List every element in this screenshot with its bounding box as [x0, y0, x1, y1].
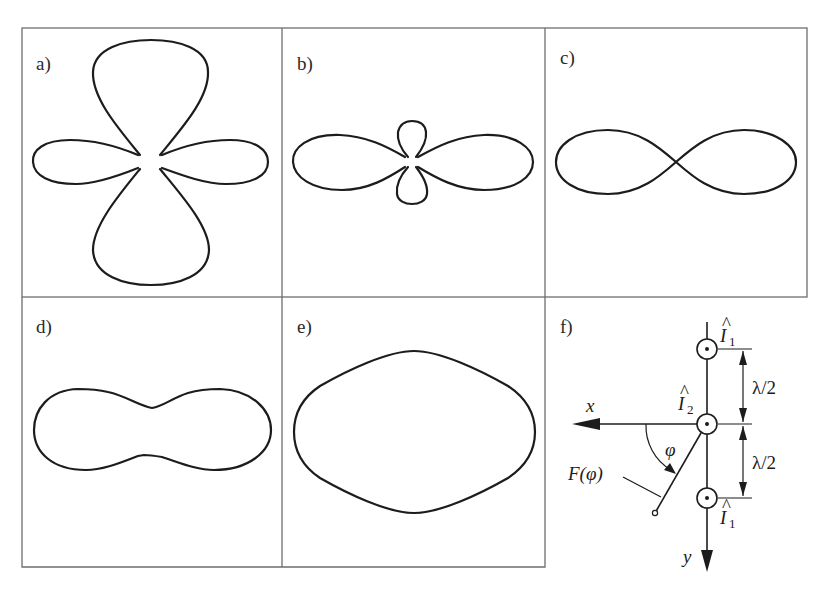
spacing-label-lower: λ/2 — [752, 452, 776, 473]
angle-arrow-icon — [664, 463, 676, 474]
pattern-leader-line — [623, 477, 661, 497]
top-row-frame — [22, 28, 807, 297]
pattern-a — [33, 40, 268, 285]
panel-label-f: f) — [560, 316, 573, 338]
pattern-e — [294, 351, 535, 513]
panel-label-d: d) — [36, 316, 52, 338]
radiation-pattern-figure: a) b) c) — [0, 0, 826, 590]
panel-e: e) — [294, 316, 535, 513]
angle-label: φ — [665, 439, 676, 460]
current-element-bottom — [697, 488, 717, 508]
pattern-d — [34, 389, 271, 470]
panel-label-e: e) — [297, 316, 312, 338]
svg-text:1: 1 — [729, 516, 736, 531]
panel-c: c) — [556, 47, 796, 194]
y-axis-arrow-icon — [701, 550, 713, 572]
panel-f: f) — [560, 313, 776, 572]
svg-text:^: ^ — [722, 313, 731, 334]
current-label-top: I ^ 1 — [719, 313, 736, 349]
x-axis-label: x — [585, 395, 595, 416]
panel-grid — [22, 28, 807, 567]
pattern-c — [556, 130, 796, 194]
svg-text:2: 2 — [687, 402, 694, 417]
bottom-row-frame — [22, 297, 545, 567]
spacing-label-upper: λ/2 — [752, 377, 776, 398]
current-element-middle — [697, 414, 717, 434]
observation-point — [652, 510, 657, 515]
pattern-b — [293, 121, 533, 204]
svg-text:^: ^ — [722, 495, 731, 516]
panel-a: a) — [33, 40, 268, 285]
x-axis-arrow-icon — [572, 418, 600, 430]
panel-label-b: b) — [297, 53, 313, 75]
current-label-middle: I ^ 2 — [677, 381, 694, 417]
svg-text:1: 1 — [729, 334, 736, 349]
panel-d: d) — [34, 316, 271, 470]
panel-b: b) — [293, 53, 533, 204]
direction-ray — [655, 433, 701, 513]
current-element-top — [697, 339, 717, 359]
dimension-upper — [739, 351, 747, 422]
svg-text:^: ^ — [680, 381, 689, 402]
dimension-lower — [739, 426, 747, 496]
panel-label-c: c) — [560, 47, 575, 69]
panel-label-a: a) — [36, 53, 51, 75]
current-label-bottom: I ^ 1 — [719, 495, 736, 531]
y-axis-label: y — [681, 546, 692, 567]
pattern-function-label: F(φ) — [567, 463, 603, 485]
